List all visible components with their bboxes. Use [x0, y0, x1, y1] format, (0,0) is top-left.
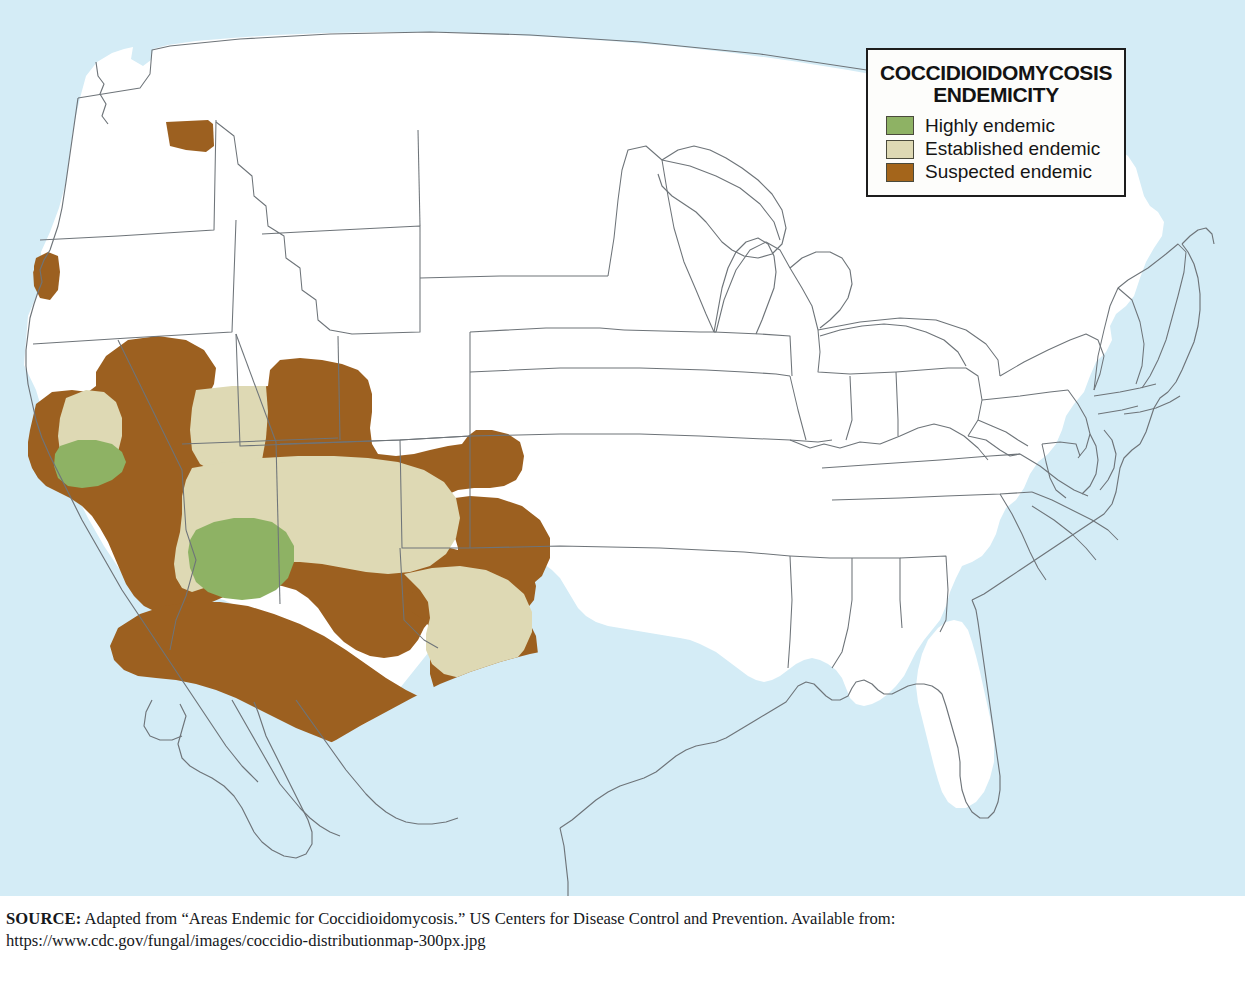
highly-endemic-swatch: [886, 116, 914, 135]
legend-item-highly-endemic: Highly endemic: [886, 115, 1112, 137]
source-label: SOURCE:: [6, 909, 81, 928]
legend-item-suspected-endemic: Suspected endemic: [886, 161, 1112, 183]
suspected-endemic-swatch: [886, 163, 914, 182]
legend-label-suspected-endemic: Suspected endemic: [925, 161, 1092, 183]
coccidioidomycosis-endemicity-figure: COCCIDIOIDOMYCOSIS ENDEMICITY Highly end…: [0, 0, 1245, 983]
source-url: https://www.cdc.gov/fungal/images/coccid…: [6, 931, 486, 950]
legend-label-highly-endemic: Highly endemic: [925, 115, 1055, 137]
legend-title: COCCIDIOIDOMYCOSIS ENDEMICITY: [880, 62, 1112, 106]
legend-item-established-endemic: Established endemic: [886, 138, 1112, 160]
map-panel: COCCIDIOIDOMYCOSIS ENDEMICITY Highly end…: [0, 0, 1245, 896]
source-text: Adapted from “Areas Endemic for Coccidio…: [81, 909, 895, 928]
map-legend: COCCIDIOIDOMYCOSIS ENDEMICITY Highly end…: [866, 48, 1126, 197]
legend-label-established-endemic: Established endemic: [925, 138, 1100, 160]
established-endemic-swatch: [886, 140, 914, 159]
source-caption: SOURCE: Adapted from “Areas Endemic for …: [6, 908, 1236, 952]
